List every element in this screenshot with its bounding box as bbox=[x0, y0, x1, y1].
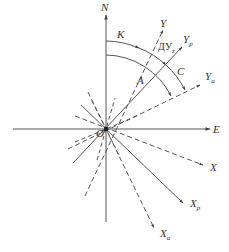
label-y: Y bbox=[160, 17, 168, 29]
ray-xp bbox=[81, 105, 183, 203]
origin-point bbox=[104, 127, 108, 131]
arc-k bbox=[106, 41, 139, 48]
label-angle-a: A bbox=[136, 74, 144, 86]
label-x: X bbox=[209, 161, 218, 173]
label-xp: Xp bbox=[189, 197, 201, 212]
label-north: N bbox=[100, 1, 109, 13]
label-angle-duz: ДУz bbox=[158, 41, 175, 55]
label-angle-c: C bbox=[177, 65, 185, 77]
ray-y bbox=[85, 30, 163, 196]
label-ya: Ya bbox=[205, 70, 215, 85]
label-east: E bbox=[212, 123, 220, 135]
label-xa: Xa bbox=[159, 227, 171, 242]
label-origin: O bbox=[96, 127, 104, 139]
angle-diagram: N E O Y Yp Ya X Xp Xa K A C ДУz bbox=[0, 0, 229, 252]
label-angle-k: K bbox=[116, 28, 125, 40]
label-yp: Yp bbox=[183, 33, 193, 48]
